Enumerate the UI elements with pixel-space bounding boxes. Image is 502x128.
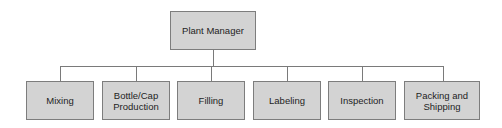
packing-and-shipping-box: Packing and Shipping [404,81,480,120]
child-connector [211,66,212,81]
box-label: Packing and Shipping [410,90,474,112]
plant-manager-box: Plant Manager [170,11,256,50]
child-connector [287,66,288,81]
root-connector [213,50,214,66]
inspection-box: Inspection [328,81,396,120]
bottle-cap-production-box: Bottle/Cap Production [102,81,170,120]
box-label: Inspection [340,95,383,106]
mixing-box: Mixing [26,81,94,120]
child-connector [136,66,137,81]
child-connector [60,66,61,81]
child-connector [443,66,444,81]
filling-box: Filling [177,81,245,120]
child-connector [362,66,363,81]
box-label: Mixing [46,95,73,106]
box-label: Filling [199,95,224,106]
box-label: Plant Manager [182,25,244,36]
horizontal-connector [60,66,444,67]
box-label: Labeling [269,95,305,106]
labeling-box: Labeling [253,81,321,120]
box-label: Bottle/Cap Production [109,90,163,112]
